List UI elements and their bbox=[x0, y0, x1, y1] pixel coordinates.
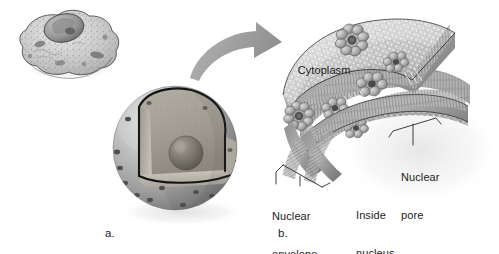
label-nuclear-pore-line1: Nuclear bbox=[401, 171, 440, 184]
label-inside-nucleus-line1: Inside bbox=[356, 209, 395, 222]
label-inside-nucleus: Inside nucleus bbox=[356, 184, 395, 254]
label-nuclear-pore-line2: pore bbox=[401, 209, 440, 222]
label-nuclear-envelope-line2: envelope bbox=[272, 248, 317, 254]
panel-label-b: b. bbox=[278, 227, 288, 239]
cutaway-left-wall bbox=[139, 107, 152, 178]
panel-label-a: a. bbox=[105, 227, 115, 239]
label-nuclear-pore: Nuclear pore bbox=[401, 146, 440, 246]
inset-nucleolus bbox=[65, 27, 75, 34]
label-inside-nucleus-line2: nucleus bbox=[356, 247, 395, 254]
label-cytoplasm-text: Cytoplasm bbox=[298, 64, 351, 76]
label-nuclear-envelope: Nuclear envelope bbox=[272, 185, 317, 254]
label-nuclear-envelope-line1: Nuclear bbox=[272, 210, 317, 223]
label-cytoplasm: Cytoplasm bbox=[285, 51, 351, 89]
nuclear-envelope-figure: Cytoplasm Nuclear envelope Inside nucleu… bbox=[0, 0, 499, 254]
